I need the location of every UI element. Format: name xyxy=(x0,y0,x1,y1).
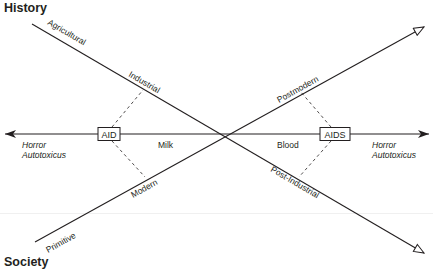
horror-right-line2: Autotoxicus xyxy=(371,150,417,160)
aid-label: AID xyxy=(101,130,117,140)
horror-right-line1: Horror xyxy=(372,140,397,150)
society-title: Society xyxy=(4,255,48,269)
horror-left-line2: Autotoxicus xyxy=(21,150,67,160)
milk-label: Milk xyxy=(158,140,174,150)
blood-label: Blood xyxy=(277,140,299,150)
post-industrial-label: Post-Industrial xyxy=(269,164,321,200)
horror-left-line1: Horror xyxy=(22,140,47,150)
dashed-aid-modern xyxy=(112,141,145,177)
postmodern-label: Postmodern xyxy=(275,74,320,105)
descending-history-line xyxy=(32,24,424,253)
aids-box: AIDS xyxy=(320,128,350,141)
aids-label: AIDS xyxy=(324,130,345,140)
agricultural-label: Agricultural xyxy=(46,17,88,47)
aid-box: AID xyxy=(98,128,120,141)
dashed-aids-postindustrial xyxy=(299,141,331,177)
dashed-aid-industrial xyxy=(112,90,143,127)
modern-label: Modern xyxy=(129,177,159,200)
dashed-aids-postmodern xyxy=(300,91,331,127)
